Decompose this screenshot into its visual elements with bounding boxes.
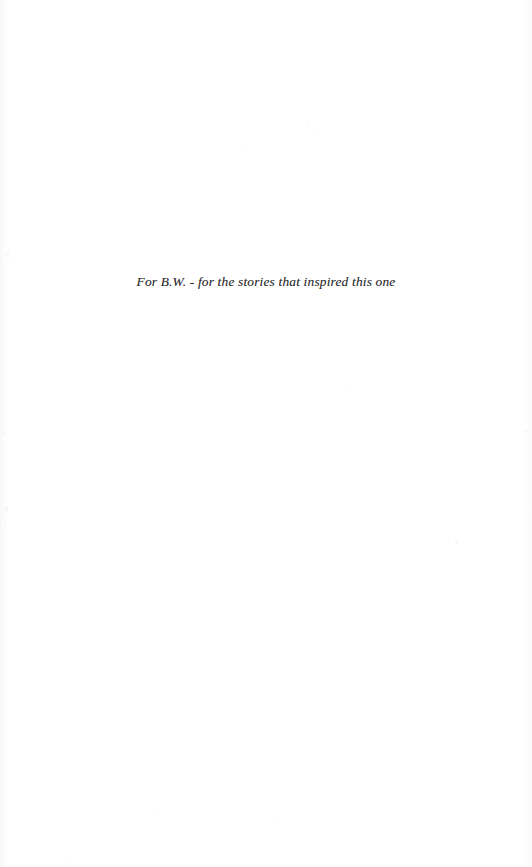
- scan-speck: [455, 541, 458, 544]
- scan-speck: [524, 430, 527, 433]
- scan-speck: [152, 808, 154, 810]
- scan-speck: [5, 506, 8, 512]
- dedication-block: For B.W. - for the stories that inspired…: [0, 271, 532, 292]
- scan-speck: [498, 415, 500, 417]
- scan-speck: [4, 300, 6, 304]
- scan-edge-shadow-left: [0, 0, 10, 867]
- scan-speck: [5, 344, 7, 347]
- scan-speck: [318, 128, 320, 130]
- scan-speck: [246, 147, 248, 149]
- scan-speck: [3, 430, 6, 435]
- scan-speck: [349, 385, 351, 387]
- dedication-text: For B.W. - for the stories that inspired…: [137, 271, 396, 292]
- scan-speck: [64, 857, 66, 859]
- scan-speck: [4, 472, 6, 476]
- scan-edge-shadow-right: [524, 0, 532, 867]
- scan-speck: [273, 818, 275, 820]
- scan-speck: [6, 252, 9, 257]
- dedication-page: For B.W. - for the stories that inspired…: [0, 0, 532, 867]
- scan-speck: [4, 524, 6, 528]
- scan-speck: [307, 122, 309, 125]
